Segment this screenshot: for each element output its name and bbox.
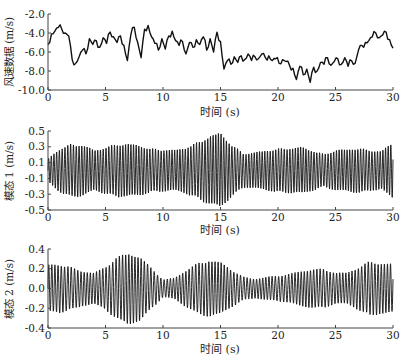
- y-tick-label: -10.0: [18, 84, 45, 96]
- x-tick-label: 25: [329, 91, 342, 103]
- y-tick-label: -0.3: [25, 188, 45, 200]
- mode-2-line: [48, 255, 393, 325]
- x-tick-label: 5: [102, 91, 109, 103]
- x-tick-label: 5: [102, 329, 109, 341]
- wind-speed-ylabel: 风速数据 (m/s): [3, 17, 15, 87]
- y-tick-label: -4.0: [25, 27, 45, 39]
- y-tick-label: -0.2: [25, 302, 45, 314]
- x-tick-label: 15: [214, 329, 227, 341]
- y-tick-label: 0.2: [28, 262, 45, 274]
- mode-1-ylabel: 模态 1 (m/s): [3, 141, 15, 201]
- x-tick-label: 10: [156, 91, 169, 103]
- subplot-wind-speed: 051015202530-2.0-4.0-6.0-8.0-10.0 风速数据 (…: [3, 8, 400, 120]
- y-tick-label: 0.4: [28, 243, 45, 255]
- figure: 051015202530-2.0-4.0-6.0-8.0-10.0 风速数据 (…: [0, 0, 407, 364]
- x-tick-label: 10: [156, 211, 169, 223]
- x-tick-label: 20: [271, 91, 284, 103]
- y-tick-label: 0.1: [28, 156, 45, 168]
- x-tick-label: 30: [386, 211, 399, 223]
- mode-1-line: [48, 133, 393, 205]
- wind-speed-line: [48, 25, 393, 83]
- x-tick-label: 25: [329, 329, 342, 341]
- subplot-mode-1: 0510152025300.50.30.1-0.1-0.3-0.5 模态 1 (…: [3, 125, 400, 238]
- x-tick-label: 15: [214, 91, 227, 103]
- wind-speed-axes: 051015202530-2.0-4.0-6.0-8.0-10.0: [18, 8, 400, 104]
- x-tick-label: 0: [45, 91, 52, 103]
- x-tick-label: 15: [214, 211, 227, 223]
- chart-canvas: 051015202530-2.0-4.0-6.0-8.0-10.0 风速数据 (…: [0, 0, 407, 364]
- wind-speed-xlabel: 时间 (s): [200, 106, 240, 119]
- y-tick-label: 0.0: [28, 282, 45, 294]
- x-tick-label: 0: [45, 211, 52, 223]
- y-tick-label: -6.0: [25, 46, 45, 58]
- mode-1-xlabel: 时间 (s): [200, 224, 240, 237]
- y-tick-label: -2.0: [25, 8, 45, 20]
- y-tick-label: 0.5: [28, 125, 45, 137]
- x-tick-label: 25: [329, 211, 342, 223]
- mode-2-xlabel: 时间 (s): [200, 343, 240, 356]
- x-tick-label: 20: [271, 211, 284, 223]
- y-tick-label: -8.0: [25, 65, 45, 77]
- mode-2-ylabel: 模态 2 (m/s): [3, 259, 15, 319]
- y-tick-label: -0.1: [25, 172, 45, 184]
- x-tick-label: 0: [45, 329, 52, 341]
- x-tick-label: 20: [271, 329, 284, 341]
- x-tick-label: 5: [102, 211, 109, 223]
- y-tick-label: 0.3: [28, 140, 45, 152]
- x-tick-label: 30: [386, 329, 399, 341]
- subplot-mode-2: 0510152025300.40.20.0-0.2-0.4 模态 2 (m/s)…: [3, 243, 400, 357]
- x-tick-label: 10: [156, 329, 169, 341]
- y-tick-label: -0.5: [25, 204, 45, 216]
- x-tick-label: 30: [386, 91, 399, 103]
- y-tick-label: -0.4: [25, 322, 46, 334]
